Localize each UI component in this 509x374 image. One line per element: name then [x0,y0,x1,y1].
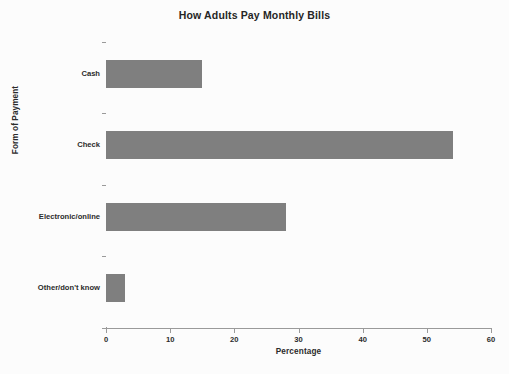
bar-chart-figure: How Adults Pay Monthly Bills Form of Pay… [0,0,509,374]
x-axis-tick [491,328,492,333]
x-axis-tick [299,328,300,333]
x-axis-tick [427,328,428,333]
x-axis-tick-label: 0 [86,335,126,344]
bar-check [106,131,453,159]
y-axis-category-label-electronic-online: Electronic/online [39,203,100,231]
x-axis-tick [106,328,107,333]
x-axis-tick-label: 10 [150,335,190,344]
x-axis-tick [363,328,364,333]
chart-title: How Adults Pay Monthly Bills [0,9,509,21]
plot-area: Cash Check Electronic/online Other/don't… [106,42,491,327]
x-axis-title: Percentage [106,347,491,356]
bar-electronic-online [106,203,286,231]
x-axis-tick-label: 40 [343,335,383,344]
y-axis-category-label-check: Check [77,131,100,159]
bar-cash [106,60,202,88]
y-axis-category-label-other-dont-know: Other/don't know [38,274,100,302]
x-axis-tick [234,328,235,333]
y-axis-title: Form of Payment [11,65,33,175]
x-axis-tick-label: 20 [214,335,254,344]
bar-other-dont-know [106,274,125,302]
x-axis-tick-label: 60 [471,335,509,344]
x-axis-tick [170,328,171,333]
x-axis-tick-label: 50 [407,335,447,344]
y-axis-category-label-cash: Cash [81,60,100,88]
x-axis-tick-label: 30 [279,335,319,344]
